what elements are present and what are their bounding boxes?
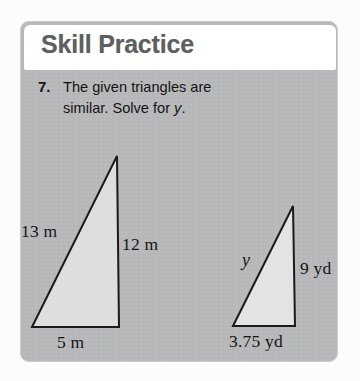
- label-left-hypotenuse: 13 m: [21, 221, 57, 242]
- label-right-base: 3.75 yd: [229, 331, 283, 352]
- label-left-base: 5 m: [57, 332, 84, 353]
- scanned-page: Skill Practice 7. The given triangles ar…: [0, 0, 360, 381]
- label-left-vertical: 12 m: [122, 234, 158, 255]
- label-right-hypotenuse: y: [242, 250, 250, 271]
- left-triangle-figure: [0, 0, 360, 381]
- figures-layer: 13 m 12 m 5 m y 9 yd 3.75 yd: [0, 0, 360, 381]
- label-right-vertical: 9 yd: [300, 258, 331, 279]
